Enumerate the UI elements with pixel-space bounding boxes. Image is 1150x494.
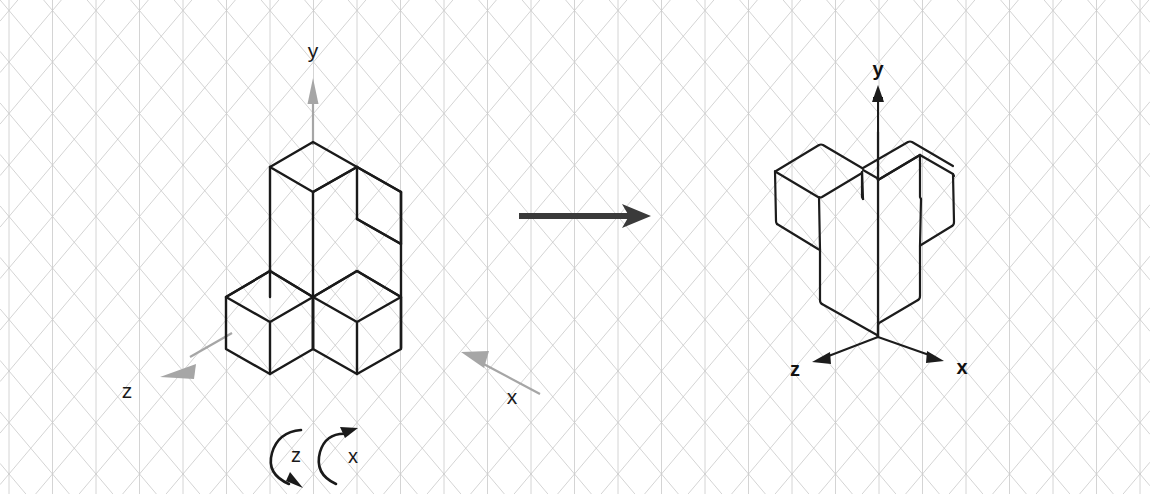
figure-canvas: y x z: [0, 0, 1150, 494]
left-axis-label-y: y: [308, 39, 319, 62]
right-axis-label-x: x: [956, 356, 967, 378]
rotation-label-z: z: [291, 444, 301, 466]
right-axis-label-y: y: [872, 58, 884, 80]
isometric-rotation-figure: y x z: [0, 0, 1150, 494]
rotation-label-x: x: [348, 445, 358, 467]
left-axis-label-x: x: [507, 385, 518, 408]
left-axis-label-z: z: [122, 379, 133, 402]
right-axis-label-z: z: [790, 358, 800, 380]
